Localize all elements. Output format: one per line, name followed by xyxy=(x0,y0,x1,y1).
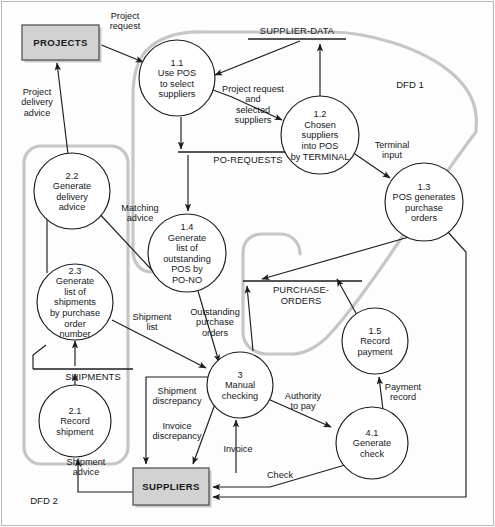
flow-label-line: delivery xyxy=(21,97,53,107)
process-number: 1.1 xyxy=(171,58,184,68)
process-p1-3[interactable]: 1.3POS generatespurchaseorders xyxy=(385,163,463,241)
process-number: 4.1 xyxy=(366,428,379,438)
store-label: SHIPMENTS xyxy=(65,371,121,382)
process-label: number xyxy=(59,329,90,339)
flow-label-line: record xyxy=(390,392,416,402)
process-label: Record xyxy=(360,336,390,346)
process-p2-2[interactable]: 2.2Generatedeliveryadvice xyxy=(34,153,110,229)
store-label: PURCHASE- xyxy=(273,284,329,295)
process-p2-3[interactable]: 2.3Generatelist ofshipmentsby purchaseor… xyxy=(37,264,113,340)
process-number: 1.2 xyxy=(314,109,327,119)
data-store-po-requests: PO-REQUESTS xyxy=(178,152,301,165)
process-label: Manual xyxy=(225,380,255,390)
data-flow-diagram: SUPPLIER-DATAPO-REQUESTSSHIPMENTSPURCHAS… xyxy=(0,0,495,527)
flow-label-line: advice xyxy=(73,467,100,477)
flow-label-line: Project xyxy=(23,87,52,97)
flow-label-shipment-list: Shipmentlist xyxy=(133,312,172,332)
flow-label-line: Invoice xyxy=(162,421,191,431)
process-label: list of xyxy=(176,243,198,253)
process-p1-4[interactable]: 1.4Generatelist ofoutstandingPOS byPO-NO xyxy=(148,214,226,292)
flow-label-line: discrepancy xyxy=(152,431,201,441)
process-label: checking xyxy=(222,391,258,401)
flow-label-line: Outstanding xyxy=(190,307,240,317)
flow-label-invoice: Invoice xyxy=(223,444,252,454)
process-label: purchase xyxy=(405,203,443,213)
process-label: list of xyxy=(64,287,86,297)
process-number: 1.3 xyxy=(418,182,431,192)
process-label: into POS xyxy=(302,141,339,151)
process-p4-1[interactable]: 4.1Generatecheck xyxy=(336,407,408,479)
flow-label-line: input xyxy=(382,150,402,160)
external-entity-projects[interactable]: PROJECTS xyxy=(22,25,102,63)
process-label: suppliers xyxy=(302,130,339,140)
flow-label-line: Shipment xyxy=(158,386,197,396)
flow-label-line: Project xyxy=(111,11,140,21)
process-p2-1[interactable]: 2.1Recordshipment xyxy=(39,385,111,457)
flow-label-line: Payment xyxy=(385,382,422,392)
flow-label-shipment-advice: Shipmentadvice xyxy=(67,457,106,477)
external-entity-suppliers[interactable]: SUPPLIERS xyxy=(133,468,212,508)
process-label: order xyxy=(64,319,85,329)
process-label: by purchase xyxy=(50,308,100,318)
flow-label-line: Matching xyxy=(121,203,158,213)
flow-label-project-delivery-advice: Projectdeliveryadvice xyxy=(21,87,53,118)
process-p1-2[interactable]: 1.2Chosensuppliersinto POSby TERMINAL xyxy=(281,96,359,174)
flow-label-line: request xyxy=(110,21,141,31)
process-label: by TERMINAL xyxy=(291,152,350,162)
process-label: orders xyxy=(411,213,437,223)
flow-label-project-request-and-suppliers: Project requestandselectedsuppliers xyxy=(222,84,284,125)
data-store-supplier-data: SUPPLIER-DATA xyxy=(248,25,346,39)
process-p1-1[interactable]: 1.1Use POSto selectsuppliers xyxy=(139,40,215,116)
process-p3[interactable]: 3Manualchecking xyxy=(207,352,273,418)
process-label: check xyxy=(360,449,384,459)
data-store-shipments: SHIPMENTS xyxy=(33,369,133,382)
flow-label-line: Invoice xyxy=(223,444,252,454)
process-label: Generate xyxy=(56,276,94,286)
entity-label: PROJECTS xyxy=(33,37,88,48)
flow-label-line: Shipment xyxy=(133,312,172,322)
flow-label-matching-advice: Matchingadvice xyxy=(121,203,158,223)
flow-label-line: to pay xyxy=(290,401,315,411)
process-label: shipment xyxy=(56,427,94,437)
flow-label-line: and xyxy=(245,94,260,104)
zone-tag-dfd1: DFD 1 xyxy=(396,79,424,90)
flow-label-line: Project request xyxy=(222,84,284,94)
flow-label-line: advice xyxy=(127,213,154,223)
flow-label-line: selected xyxy=(236,105,270,115)
process-label: Chosen xyxy=(304,120,336,130)
process-number: 3 xyxy=(237,370,242,380)
store-label: PO-REQUESTS xyxy=(213,154,282,165)
flow-label-terminal-input: Terminalinput xyxy=(375,140,410,160)
flow-label-line: suppliers xyxy=(235,115,272,125)
process-label: Generate xyxy=(53,181,91,191)
process-label: payment xyxy=(357,347,393,357)
flow-label-line: advice xyxy=(24,108,51,118)
process-p1-5[interactable]: 1.5Recordpayment xyxy=(342,308,408,374)
flow-label-line: list xyxy=(146,322,158,332)
flow-label-line: Terminal xyxy=(375,140,410,150)
flow-label-check: Check xyxy=(267,470,293,480)
flow-label-outstanding-purchase-orders: Outstandingpurchaseorders xyxy=(190,307,240,338)
process-number: 2.3 xyxy=(69,266,82,276)
data-store-purchase-orders: PURCHASE-ORDERS xyxy=(243,281,362,306)
entity-label: SUPPLIERS xyxy=(142,481,200,492)
process-number: 2.2 xyxy=(66,171,79,181)
process-label: advice xyxy=(59,202,86,212)
store-label-line2: ORDERS xyxy=(281,295,322,306)
flow-label-authority-to-pay: Authorityto pay xyxy=(285,391,322,411)
process-label: Record xyxy=(60,416,90,426)
dfd-canvas: SUPPLIER-DATAPO-REQUESTSSHIPMENTSPURCHAS… xyxy=(0,0,495,527)
flow-label-line: discrepancy xyxy=(152,396,201,406)
process-label: POS by xyxy=(171,264,203,274)
process-label: Generate xyxy=(353,438,391,448)
process-label: POS generates xyxy=(393,192,456,202)
process-label: delivery xyxy=(56,192,88,202)
flow-label-line: Shipment xyxy=(67,457,106,467)
zone-tag-dfd2: DFD 2 xyxy=(30,495,58,506)
process-label: shipments xyxy=(54,297,96,307)
process-label: Generate xyxy=(168,233,206,243)
process-number: 1.4 xyxy=(181,222,194,232)
process-label: to select xyxy=(160,79,195,89)
process-number: 1.5 xyxy=(369,326,382,336)
process-label: suppliers xyxy=(159,89,196,99)
